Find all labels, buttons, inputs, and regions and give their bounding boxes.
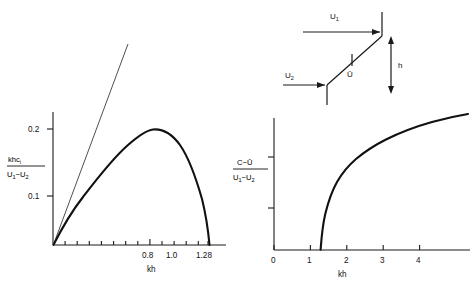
right-xticks: [274, 245, 420, 250]
u2-label: U2: [285, 71, 294, 81]
growth-rate-panel: 0.1 0.2 0.8 1.0 1.28 kh khci U1−U2: [7, 44, 226, 274]
ubar-label: Ū: [347, 70, 353, 79]
right-xaxis-label: kh: [338, 270, 347, 279]
h-label: h: [398, 61, 402, 70]
figure-root: U1 U2 Ū h 0.1 0.2 0.8 1: [0, 0, 476, 285]
h-dimension-arrow: [388, 36, 394, 94]
right-xtick-label-4: 4: [416, 256, 421, 265]
right-ylabel-denominator: U1−U2: [233, 173, 255, 183]
left-yaxis-label: khci U1−U2: [7, 155, 45, 180]
left-ytick-label-0.2: 0.2: [28, 125, 40, 134]
left-xtick-label-0.8: 0.8: [142, 251, 154, 260]
u2-arrow: [283, 82, 325, 88]
right-xtick-label-0: 0: [271, 256, 276, 265]
left-ylabel-numerator: khci: [8, 155, 21, 165]
left-ytick-label-0.1: 0.1: [28, 192, 40, 201]
right-ylabel-numerator: C−Ū: [237, 158, 252, 167]
right-xtick-label-1: 1: [307, 256, 312, 265]
left-xtick-label-1.0: 1.0: [166, 251, 178, 260]
u1-label: U1: [330, 12, 339, 22]
u1-arrow: [303, 29, 380, 35]
velocity-profile-schematic: U1 U2 Ū h: [283, 12, 402, 105]
left-xticks: [65, 239, 208, 245]
phase-speed-curve: [321, 114, 468, 250]
right-xtick-label-3: 3: [380, 256, 385, 265]
figure-svg: U1 U2 Ū h 0.1 0.2 0.8 1: [0, 0, 476, 285]
tangent-line: [54, 44, 129, 245]
left-xtick-label-1.28: 1.28: [196, 251, 212, 260]
right-yaxis-label: C−Ū U1−U2: [233, 158, 268, 183]
right-xtick-label-2: 2: [344, 256, 349, 265]
left-xaxis-label: kh: [147, 265, 156, 274]
profile-shear-segment: [327, 36, 382, 85]
left-ylabel-denominator: U1−U2: [7, 170, 29, 180]
growth-rate-curve: [54, 129, 210, 245]
phase-speed-panel: 0 1 2 3 4 kh C−Ū U1−U2: [233, 114, 470, 279]
